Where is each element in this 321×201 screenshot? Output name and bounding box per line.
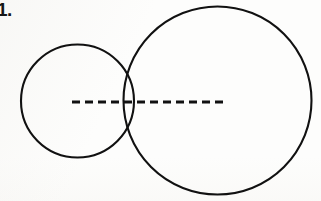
geometry-figure — [0, 0, 321, 201]
problem-number-label: 1. — [0, 0, 12, 21]
worksheet-page: 1. — [0, 0, 321, 201]
